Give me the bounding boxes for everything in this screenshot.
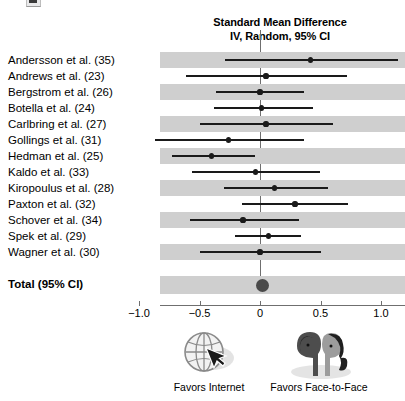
x-axis-tick bbox=[321, 301, 322, 306]
point-estimate-marker bbox=[226, 137, 231, 142]
point-estimate-marker bbox=[263, 121, 268, 126]
study-label: Paxton et al. (32) bbox=[8, 196, 158, 212]
study-label: Wagner et al. (30) bbox=[8, 244, 158, 260]
point-estimate-marker bbox=[266, 233, 271, 238]
x-axis-tick-label: 0 bbox=[240, 307, 280, 319]
chart-title-line1: Standard Mean Difference bbox=[160, 15, 400, 29]
point-estimate-marker bbox=[292, 201, 297, 206]
study-label: Spek et al. (29) bbox=[8, 228, 158, 244]
study-label: Gollings et al. (31) bbox=[8, 132, 158, 148]
summary-effect-marker bbox=[256, 279, 269, 292]
x-axis-tick bbox=[139, 301, 140, 306]
point-estimate-marker bbox=[209, 153, 214, 158]
study-label: Bergstrom et al. (26) bbox=[8, 84, 158, 100]
x-axis-tick bbox=[200, 301, 201, 306]
point-estimate-marker bbox=[257, 89, 262, 94]
point-estimate-marker bbox=[308, 57, 313, 62]
x-axis-tick bbox=[381, 301, 382, 306]
point-estimate-marker bbox=[240, 217, 245, 222]
study-label: Botella et al. (24) bbox=[8, 100, 158, 116]
favors-face-to-face-caption: Favors Face-to-Face bbox=[249, 381, 389, 393]
x-axis-tick-label: −1.0 bbox=[119, 307, 159, 319]
x-axis-tick-label: 1.0 bbox=[361, 307, 401, 319]
point-estimate-marker bbox=[263, 73, 268, 78]
study-label: Carlbring et al. (27) bbox=[8, 116, 158, 132]
x-axis-tick bbox=[260, 301, 261, 306]
point-estimate-marker bbox=[257, 249, 262, 254]
study-label: Hedman et al. (25) bbox=[8, 148, 158, 164]
x-axis-tick-label: −0.5 bbox=[180, 307, 220, 319]
study-label-column: Andersson et al. (35)Andrews et al. (23)… bbox=[8, 52, 158, 260]
study-label: Kaldo et al. (33) bbox=[8, 164, 158, 180]
total-label: Total (95% CI) bbox=[8, 276, 83, 292]
x-axis-tick-label: 0.5 bbox=[301, 307, 341, 319]
x-axis-line bbox=[160, 305, 405, 306]
point-estimate-marker bbox=[253, 169, 258, 174]
page-corner-artifact bbox=[26, 0, 41, 7]
study-label: Kiropoulus et al. (28) bbox=[8, 180, 158, 196]
globe-cursor-icon bbox=[178, 330, 240, 384]
study-label: Schover et al. (34) bbox=[8, 212, 158, 228]
point-estimate-marker bbox=[272, 185, 277, 190]
point-estimate-marker bbox=[259, 105, 264, 110]
plot-area bbox=[160, 30, 405, 305]
two-faces-icon bbox=[283, 328, 355, 384]
study-label: Andrews et al. (23) bbox=[8, 68, 158, 84]
study-label: Andersson et al. (35) bbox=[8, 52, 158, 68]
total-row-band bbox=[160, 276, 405, 294]
forest-plot-figure: Standard Mean Difference IV, Random, 95%… bbox=[0, 0, 405, 401]
